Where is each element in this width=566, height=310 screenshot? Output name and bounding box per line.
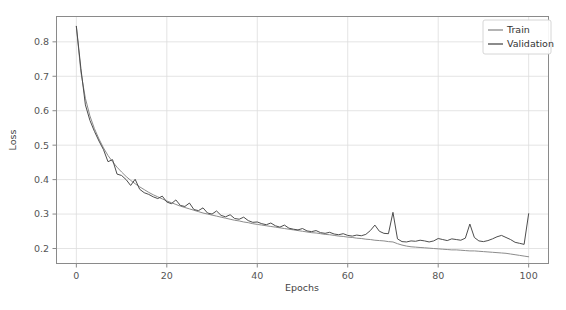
- y-tick-label: 0.8: [34, 36, 49, 47]
- x-tick-label: 20: [161, 270, 173, 281]
- chart-figure: 020406080100 0.20.30.40.50.60.70.8 Epoch…: [0, 0, 566, 310]
- y-tick-label: 0.3: [34, 208, 49, 219]
- y-tick-label: 0.4: [34, 174, 49, 185]
- x-tick-label: 40: [251, 270, 263, 281]
- x-tick-label: 60: [342, 270, 354, 281]
- x-tick-label: 0: [73, 270, 79, 281]
- legend-label-validation: Validation: [507, 38, 554, 49]
- y-tick-label: 0.7: [34, 71, 49, 82]
- legend-label-train: Train: [506, 24, 530, 35]
- x-axis-title: Epochs: [285, 282, 319, 293]
- x-tick-label: 100: [520, 270, 538, 281]
- y-tick-label: 0.2: [34, 243, 49, 254]
- plot-area-background: [56, 16, 549, 264]
- x-tick-label: 80: [432, 270, 444, 281]
- y-tick-label: 0.5: [34, 140, 49, 151]
- loss-curve-chart: 020406080100 0.20.30.40.50.60.70.8 Epoch…: [0, 0, 566, 310]
- chart-legend[interactable]: TrainValidation: [483, 20, 554, 54]
- y-tick-label: 0.6: [34, 105, 49, 116]
- y-axis-title: Loss: [7, 130, 18, 151]
